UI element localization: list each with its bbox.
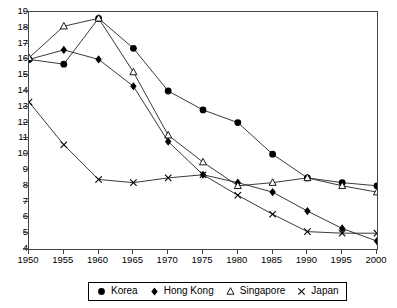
x-tick-label: 2000: [356, 255, 396, 265]
data-point: [304, 207, 310, 215]
x-tick-mark: [167, 250, 168, 254]
chart-container: 45678910111213141516171819 1950195519601…: [0, 0, 397, 308]
legend-item-hong-kong[interactable]: Hong Kong: [149, 285, 214, 297]
filled-diamond-icon: [149, 286, 160, 297]
series-hong-kong: [29, 46, 377, 245]
data-point: [130, 45, 137, 52]
filled-circle-icon: [96, 286, 107, 297]
chart-legend: KoreaHong KongSingaporeJapan: [88, 282, 347, 301]
series-canvas: [29, 12, 377, 249]
x-tick-mark: [237, 250, 238, 254]
x-tick-mark: [28, 250, 29, 254]
legend-item-japan[interactable]: Japan: [296, 285, 338, 297]
data-point: [165, 88, 172, 95]
data-point: [269, 211, 275, 217]
data-point: [95, 55, 101, 63]
x-tick-mark: [272, 250, 273, 254]
y-axis: 45678910111213141516171819: [0, 0, 28, 260]
data-point: [130, 68, 137, 75]
data-point: [374, 237, 377, 245]
x-tick-mark: [376, 250, 377, 254]
data-point: [269, 151, 276, 158]
data-point: [269, 188, 275, 196]
x-tick-mark: [132, 250, 133, 254]
legend-label: Japan: [311, 285, 338, 297]
legend-label: Korea: [111, 285, 138, 297]
series-japan: [29, 99, 377, 237]
x-tick-mark: [202, 250, 203, 254]
data-point: [29, 99, 32, 105]
data-point: [374, 182, 377, 189]
legend-item-singapore[interactable]: Singapore: [225, 285, 286, 297]
data-point: [61, 46, 67, 54]
data-point: [61, 142, 67, 148]
plot-area: [28, 11, 378, 250]
data-point: [235, 192, 241, 198]
open-triangle-icon: [225, 286, 236, 297]
data-point: [234, 119, 241, 126]
x-axis: 1950195519601965197019751980198519901995…: [0, 253, 397, 267]
x-tick-mark: [341, 250, 342, 254]
data-point: [165, 131, 172, 138]
x-tick-mark: [63, 250, 64, 254]
data-point: [200, 158, 207, 165]
x-tick-mark: [98, 250, 99, 254]
legend-label: Hong Kong: [164, 285, 214, 297]
x-tick-mark: [306, 250, 307, 254]
legend-label: Singapore: [240, 285, 286, 297]
data-point: [60, 61, 67, 68]
legend-item-korea[interactable]: Korea: [96, 285, 138, 297]
data-point: [200, 107, 207, 114]
cross-icon: [296, 286, 307, 297]
